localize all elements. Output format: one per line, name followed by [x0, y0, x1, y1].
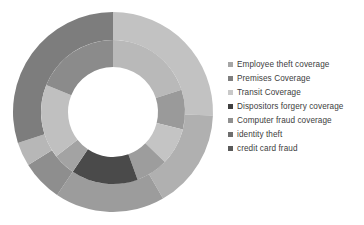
legend-swatch-icon	[228, 146, 233, 151]
doughnut-plot-area	[0, 0, 226, 225]
legend-item[interactable]: identity theft	[227, 127, 364, 141]
legend-item[interactable]: Dispositors forgery coverage	[227, 99, 364, 113]
legend-swatch-icon	[228, 62, 233, 67]
doughnut-svg	[0, 0, 226, 225]
legend-item-label: Dispositors forgery coverage	[237, 102, 344, 111]
legend-swatch-icon	[228, 118, 233, 123]
legend-item-label: Employee theft coverage	[237, 60, 329, 69]
doughnut-chart: Employee theft coveragePremises Coverage…	[0, 0, 364, 225]
legend-item[interactable]: Premises Coverage	[227, 71, 364, 85]
legend-item[interactable]: credit card fraud	[227, 141, 364, 155]
chart-legend: Employee theft coveragePremises Coverage…	[227, 57, 364, 155]
legend-swatch-icon	[228, 104, 233, 109]
inner-ring	[41, 40, 185, 184]
legend-item-label: identity theft	[237, 130, 282, 139]
legend-item-label: Premises Coverage	[237, 74, 310, 83]
legend-item[interactable]: Transit Coverage	[227, 85, 364, 99]
legend-swatch-icon	[228, 132, 233, 137]
legend-item-label: credit card fraud	[237, 144, 298, 153]
legend-swatch-icon	[228, 76, 233, 81]
legend-item[interactable]: Employee theft coverage	[227, 57, 364, 71]
legend-item[interactable]: Computer fraud coverage	[227, 113, 364, 127]
legend-item-label: Computer fraud coverage	[237, 116, 332, 125]
legend-item-label: Transit Coverage	[237, 88, 301, 97]
legend-swatch-icon	[228, 90, 233, 95]
